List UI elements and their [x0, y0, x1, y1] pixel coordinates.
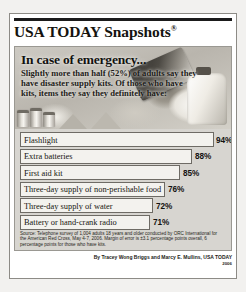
bar-label: Battery or hand-crank radio [24, 218, 117, 227]
bar-value: 94% [216, 136, 232, 145]
bar-row: Extra batteries 88% [15, 149, 231, 165]
page-title: USA TODAY Snapshots® [14, 23, 177, 41]
registered-trademark-mark: ® [171, 24, 177, 33]
deck-text: Slightly more than half (52%) of adults … [21, 69, 197, 98]
tarp-triangle-1 [59, 114, 87, 129]
bar-value: 71% [153, 218, 169, 227]
tarp-triangle-2 [91, 112, 121, 129]
bar-label: Flashlight [24, 136, 58, 145]
canned-food-can-3 [43, 112, 55, 127]
headline: In case of emergency... [21, 52, 203, 68]
bar-row: Battery or hand-crank radio 71% [15, 215, 231, 231]
bar-row: First aid kit 85% [15, 165, 231, 181]
bar-label: First aid kit [24, 169, 63, 178]
masthead: USA TODAY Snapshots® [14, 18, 232, 44]
byline-credit: By Tracey Wong Briggs and Marcy E. Mulli… [14, 254, 232, 260]
canned-food-can-1 [17, 110, 29, 127]
byline: By Tracey Wong Briggs and Marcy E. Mulli… [14, 254, 232, 266]
bar-value: 85% [183, 169, 199, 178]
masthead-title-text: USA TODAY Snapshots [14, 23, 171, 40]
jug-cap-shape [196, 67, 211, 75]
can-lid-icon [17, 110, 29, 113]
masthead-rule [14, 18, 232, 21]
bar-label: Extra batteries [24, 152, 73, 161]
can-lid-icon [43, 112, 55, 115]
byline-year: 2006 [14, 261, 232, 266]
bar-row: Three-day supply of water 72% [15, 198, 231, 214]
can-lid-icon [30, 108, 42, 111]
canned-food-can-2 [30, 108, 42, 127]
chart-panel: In case of emergency... Slightly more th… [14, 46, 232, 251]
emergency-supplies-photo: In case of emergency... Slightly more th… [15, 47, 231, 129]
snapshot-infographic: USA TODAY Snapshots® In case of emergenc… [0, 0, 246, 292]
bar-chart: Flashlight 94% Extra batteries 88% First… [15, 129, 231, 229]
bar-value: 88% [195, 152, 211, 161]
bar-value: 76% [168, 185, 184, 194]
bar-row: Three-day supply of non-perishable food … [15, 182, 231, 198]
bar-value: 72% [156, 202, 172, 211]
source-note: Source: Telephone survey of 1,004 adults… [20, 231, 222, 247]
bar-label: Three-day supply of non-perishable food [24, 185, 161, 194]
bar-label: Three-day supply of water [24, 202, 113, 211]
bar-row: Flashlight 94% [15, 132, 231, 148]
